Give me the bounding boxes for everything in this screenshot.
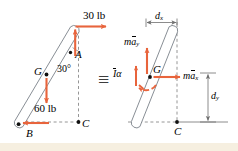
- label-point-a: A: [75, 49, 82, 60]
- label-dx-subscript: x: [160, 14, 163, 21]
- point-g-dot-right: [148, 75, 152, 79]
- point-a-dot: [69, 51, 72, 54]
- point-b-dot: [17, 122, 21, 126]
- label-weight-60lb: 60 lb: [34, 103, 56, 114]
- label-i-alpha: Iα: [113, 69, 122, 79]
- label-ma-y: may: [124, 37, 139, 48]
- point-g-dot: [45, 73, 49, 77]
- point-c-dot-right: [175, 120, 179, 124]
- right-kinetic-diagram: [128, 19, 228, 128]
- left-free-body-diagram: [14, 26, 106, 128]
- label-max-m: m: [183, 70, 190, 81]
- label-max-a: a: [190, 71, 195, 81]
- label-point-g-left: G: [34, 66, 42, 77]
- label-point-g-right: G: [153, 64, 161, 75]
- label-ma-x: max: [183, 71, 198, 82]
- equivalence-symbol: ≡: [98, 68, 109, 91]
- point-c-dot-left: [77, 120, 81, 124]
- label-ialpha-i: I: [113, 69, 116, 79]
- label-may-a: a: [131, 37, 136, 47]
- figure-container: ≡ 30 lb A G 30° 60 lb B C dx may Iα G ma…: [0, 0, 238, 151]
- label-ialpha-alpha: α: [116, 68, 121, 79]
- label-may-m: m: [124, 36, 131, 47]
- label-angle-30deg: 30°: [57, 64, 71, 74]
- label-force-30lb: 30 lb: [83, 10, 105, 21]
- label-point-c-left: C: [82, 118, 89, 129]
- label-point-c-right: C: [174, 126, 181, 137]
- label-dimension-dy: dy: [211, 91, 219, 102]
- label-may-subscript: y: [136, 40, 139, 47]
- label-max-subscript: x: [195, 74, 198, 81]
- label-point-b: B: [26, 128, 33, 139]
- label-dimension-dx: dx: [155, 11, 163, 22]
- label-dy-subscript: y: [216, 94, 219, 101]
